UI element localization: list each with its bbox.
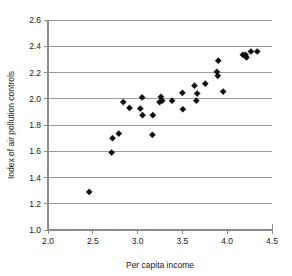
x-tick-label: 3.5 (176, 236, 188, 246)
y-tick-label: 2.2 (29, 68, 41, 78)
data-point (86, 189, 92, 195)
data-point (149, 132, 155, 138)
data-point (248, 48, 254, 54)
x-tick-label: 2.0 (42, 236, 54, 246)
data-point (254, 48, 260, 54)
x-tick-label: 2.5 (87, 236, 99, 246)
x-tick-label: 4.5 (266, 236, 278, 246)
data-point (109, 135, 115, 141)
x-tick-label: 3.0 (132, 236, 144, 246)
data-point (139, 112, 145, 118)
data-point (109, 149, 115, 155)
data-point (179, 90, 185, 96)
y-tick-label: 1.8 (29, 120, 41, 130)
y-tick-label: 1.0 (29, 225, 41, 235)
data-point (126, 105, 132, 111)
data-point (139, 94, 145, 100)
x-axis-title: Per capita income (126, 260, 194, 270)
data-point (191, 83, 197, 89)
data-point (120, 99, 126, 105)
y-tick-label: 2.4 (29, 41, 41, 51)
data-point (215, 58, 221, 64)
data-point (220, 88, 226, 94)
scatter-chart: 1.01.21.41.61.82.02.22.42.62.02.53.03.54… (0, 0, 292, 276)
data-point (180, 106, 186, 112)
data-point (116, 130, 122, 136)
y-tick-label: 2.0 (29, 94, 41, 104)
data-point (202, 81, 208, 87)
chart-canvas: 1.01.21.41.61.82.02.22.42.62.02.53.03.54… (0, 0, 292, 276)
x-tick-label: 4.0 (221, 236, 233, 246)
data-point (194, 90, 200, 96)
y-tick-label: 1.2 (29, 199, 41, 209)
data-point (150, 112, 156, 118)
data-point (137, 105, 143, 111)
y-tick-label: 2.6 (29, 15, 41, 25)
y-tick-label: 1.4 (29, 173, 41, 183)
y-axis-title: Index of air pollution controls (6, 71, 16, 179)
y-tick-label: 1.6 (29, 146, 41, 156)
